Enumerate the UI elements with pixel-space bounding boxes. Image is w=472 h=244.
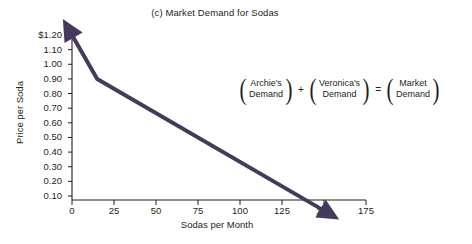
- market-demand-curve: [72, 35, 324, 211]
- plot-area: [0, 0, 472, 244]
- market-demand-equation: ( Archie's Demand ) + ( Veronica's Deman…: [238, 78, 441, 100]
- equation-term-archies-line1: Archie's: [250, 78, 282, 89]
- equation-term-market-line2: Demand: [396, 89, 430, 100]
- equation-term-archies-line2: Demand: [249, 89, 283, 100]
- axis-lines: [72, 28, 366, 200]
- chart-figure: (c) Market Demand for Sodas Price per So…: [0, 0, 472, 244]
- equation-term-market-line1: Market: [399, 78, 427, 89]
- equation-term-archies: ( Archie's Demand ): [238, 78, 294, 100]
- x-axis-ticks: [72, 200, 366, 205]
- y-axis-ticks: [68, 35, 72, 196]
- equation-operator-plus: +: [294, 84, 308, 95]
- equation-term-veronicas: ( Veronica's Demand ): [308, 78, 371, 100]
- equation-operator-equals: =: [371, 84, 385, 95]
- equation-term-veronicas-line1: Veronica's: [319, 78, 360, 89]
- equation-term-veronicas-line2: Demand: [322, 89, 356, 100]
- equation-term-market: ( Market Demand ): [385, 78, 441, 100]
